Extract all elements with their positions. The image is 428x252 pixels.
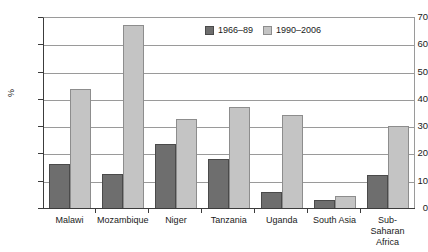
x-axis-label: Uganda <box>255 215 308 248</box>
bar-group <box>149 17 202 208</box>
bar <box>367 175 388 208</box>
x-axis-label: Sub-Saharan Africa <box>361 215 414 248</box>
bar <box>261 192 282 208</box>
legend-swatch-icon <box>263 26 272 35</box>
bar <box>208 159 229 208</box>
bar-group <box>202 17 255 208</box>
x-tick-mark <box>308 208 361 213</box>
x-tick-mark <box>149 208 202 213</box>
bar <box>335 196 356 208</box>
chart-legend: 1966–891990–2006 <box>205 25 321 35</box>
bar-group <box>96 17 149 208</box>
bar-groups <box>43 17 414 208</box>
bar-group <box>255 17 308 208</box>
x-axis-label: Niger <box>149 215 202 248</box>
legend-label: 1966–89 <box>218 25 253 35</box>
bar <box>155 144 176 208</box>
x-tick-mark <box>361 208 414 213</box>
x-tick-mark <box>202 208 255 213</box>
bar <box>49 164 70 208</box>
legend-item: 1966–89 <box>205 25 253 35</box>
bar-group <box>308 17 361 208</box>
x-tick-mark <box>43 208 96 213</box>
x-axis-label: Tanzania <box>202 215 255 248</box>
legend-label: 1990–2006 <box>276 25 321 35</box>
bar <box>388 126 409 208</box>
x-tick-mark <box>255 208 308 213</box>
plot-right-edge <box>414 18 415 209</box>
legend-item: 1990–2006 <box>263 25 321 35</box>
bar <box>176 119 197 208</box>
bar-group <box>361 17 414 208</box>
bar <box>102 174 123 208</box>
x-axis-label: South Asia <box>308 215 361 248</box>
bar <box>123 25 144 208</box>
bar-chart: % 010203040506070 MalawiMozambiqueNigerT… <box>0 0 428 252</box>
x-axis-labels: MalawiMozambiqueNigerTanzaniaUgandaSouth… <box>43 215 414 248</box>
bar <box>229 107 250 208</box>
legend-swatch-icon <box>205 26 214 35</box>
x-tick-mark <box>96 208 149 213</box>
bar <box>314 200 335 208</box>
x-axis-label: Mozambique <box>96 215 150 248</box>
bar <box>282 115 303 208</box>
x-axis-label: Malawi <box>43 215 96 248</box>
bar <box>70 89 91 208</box>
x-axis-ticks <box>43 208 414 213</box>
bar-group <box>43 17 96 208</box>
y-axis-title: % <box>6 78 16 108</box>
